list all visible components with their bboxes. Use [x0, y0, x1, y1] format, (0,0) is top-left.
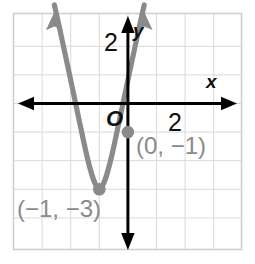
coordinate-plane-figure: x y 2 2 O (0, −1) (−1, −3)	[0, 0, 255, 264]
point-y-intercept	[122, 126, 135, 139]
x-axis-label: x	[206, 72, 217, 91]
vertex-point-label: (−1, −3)	[17, 197, 101, 221]
y-intercept-point-label: (0, −1)	[136, 134, 206, 158]
point-vertex	[93, 183, 106, 196]
origin-label: O	[106, 108, 123, 130]
graph-canvas	[0, 0, 255, 264]
y-axis-label: y	[133, 21, 144, 40]
y-axis-tick-2: 2	[104, 30, 118, 55]
